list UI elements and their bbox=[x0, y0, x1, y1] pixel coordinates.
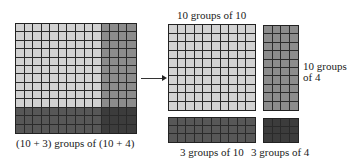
grid-cell bbox=[59, 24, 68, 32]
grid-cell bbox=[25, 83, 34, 91]
grid-cell bbox=[85, 83, 94, 91]
grid-cell bbox=[281, 127, 290, 135]
grid-cell bbox=[229, 134, 238, 142]
block-10-groups-of-10 bbox=[168, 24, 256, 111]
grid-cell bbox=[281, 60, 290, 68]
grid-cell bbox=[67, 74, 76, 82]
grid-cell bbox=[169, 126, 178, 134]
grid-cell bbox=[203, 126, 212, 134]
grid-cell bbox=[203, 102, 212, 111]
grid-cell bbox=[264, 85, 273, 93]
grid-cell bbox=[67, 83, 76, 91]
grid-cell bbox=[42, 41, 51, 49]
grid-cell bbox=[127, 32, 136, 40]
grid-cell bbox=[102, 125, 111, 133]
grid-cell bbox=[203, 42, 212, 51]
grid-cell bbox=[264, 127, 273, 135]
block-10x4-label-line2: of 4 bbox=[303, 71, 320, 83]
grid-cell bbox=[102, 66, 111, 74]
grid-cell bbox=[59, 32, 68, 40]
grid-cell bbox=[229, 102, 238, 111]
grid-cell bbox=[67, 49, 76, 57]
grid-cell bbox=[246, 93, 255, 102]
grid-cell bbox=[25, 99, 34, 107]
grid-cell bbox=[281, 93, 290, 101]
grid-cell bbox=[85, 41, 94, 49]
grid-cell bbox=[203, 76, 212, 85]
grid-cell bbox=[203, 25, 212, 34]
grid-cell bbox=[42, 125, 51, 133]
grid-cell bbox=[85, 74, 94, 82]
grid-cell bbox=[238, 134, 247, 142]
grid-cell bbox=[229, 25, 238, 34]
grid-cell bbox=[76, 116, 85, 124]
grid-cell bbox=[85, 99, 94, 107]
grid-cell bbox=[93, 66, 102, 74]
grid-cell bbox=[281, 134, 290, 142]
block-3-groups-of-10 bbox=[168, 117, 256, 143]
grid-cell bbox=[76, 108, 85, 116]
grid-cell bbox=[246, 134, 255, 142]
arrow-right-icon bbox=[141, 78, 163, 79]
grid-cell bbox=[93, 24, 102, 32]
grid-cell bbox=[290, 43, 299, 51]
grid-cell bbox=[102, 74, 111, 82]
grid-cell bbox=[186, 118, 195, 126]
grid-cell bbox=[67, 108, 76, 116]
grid-cell bbox=[110, 125, 119, 133]
grid-cell bbox=[186, 51, 195, 60]
grid-cell bbox=[290, 34, 299, 42]
grid-cell bbox=[50, 74, 59, 82]
grid-cell bbox=[203, 118, 212, 126]
grid-cell bbox=[50, 24, 59, 32]
grid-cell bbox=[16, 24, 25, 32]
grid-cell bbox=[119, 58, 128, 66]
grid-cell bbox=[221, 102, 230, 111]
grid-cell bbox=[119, 74, 128, 82]
grid-cell bbox=[281, 26, 290, 34]
grid-cell bbox=[238, 85, 247, 94]
grid-cell bbox=[290, 93, 299, 101]
grid-cell bbox=[246, 118, 255, 126]
grid-cell bbox=[119, 108, 128, 116]
grid-cell bbox=[33, 32, 42, 40]
grid-cell bbox=[178, 93, 187, 102]
grid-cell bbox=[203, 51, 212, 60]
grid-cell bbox=[186, 42, 195, 51]
grid-cell bbox=[42, 74, 51, 82]
grid-cell bbox=[50, 99, 59, 107]
grid-cell bbox=[127, 66, 136, 74]
grid-cell bbox=[33, 99, 42, 107]
grid-cell bbox=[178, 102, 187, 111]
grid-cell bbox=[273, 85, 282, 93]
grid-cell bbox=[195, 85, 204, 94]
grid-cell bbox=[186, 134, 195, 142]
grid-cell bbox=[67, 58, 76, 66]
grid-cell bbox=[59, 125, 68, 133]
grid-cell bbox=[16, 99, 25, 107]
grid-cell bbox=[238, 118, 247, 126]
grid-cell bbox=[76, 99, 85, 107]
grid-cell bbox=[59, 49, 68, 57]
grid-cell bbox=[238, 102, 247, 111]
grid-cell bbox=[93, 99, 102, 107]
grid-cell bbox=[238, 68, 247, 77]
grid-cell bbox=[290, 76, 299, 84]
grid-cell bbox=[42, 32, 51, 40]
grid-cell bbox=[93, 58, 102, 66]
grid-cell bbox=[221, 42, 230, 51]
grid-cell bbox=[59, 58, 68, 66]
grid-cell bbox=[127, 125, 136, 133]
block-3-groups-of-4 bbox=[263, 118, 299, 143]
grid-cell bbox=[195, 51, 204, 60]
grid-cell bbox=[42, 58, 51, 66]
grid-cell bbox=[212, 59, 221, 68]
grid-cell bbox=[33, 125, 42, 133]
grid-cell bbox=[50, 116, 59, 124]
grid-cell bbox=[238, 42, 247, 51]
grid-cell bbox=[195, 59, 204, 68]
grid-cell bbox=[67, 41, 76, 49]
grid-cell bbox=[203, 93, 212, 102]
grid-cell bbox=[178, 34, 187, 43]
grid-cell bbox=[178, 51, 187, 60]
